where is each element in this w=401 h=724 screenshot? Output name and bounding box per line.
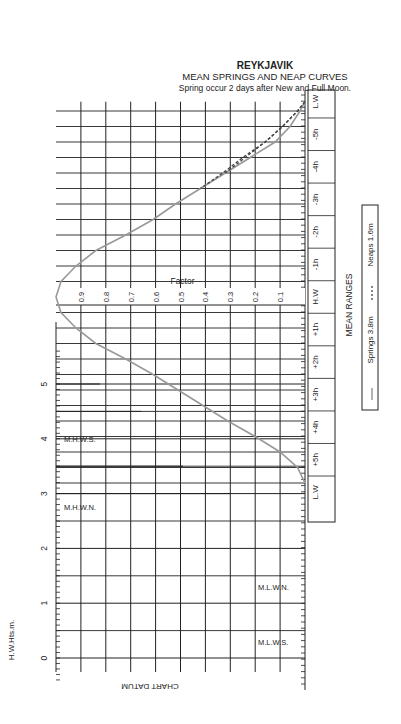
height-axis-label: H.W.Hts.m.	[7, 620, 16, 660]
neaps-legend-label: Neaps 1.6m	[366, 223, 375, 266]
time-tick-label: -3h	[311, 194, 320, 206]
time-tick-label: H.W	[311, 289, 320, 305]
mhws-label: M.H.W.S.	[64, 435, 96, 444]
factor-tick-label: 0.2	[251, 292, 260, 302]
factor-label: Factor	[170, 276, 194, 286]
mlws-label: M.L.W.S.	[258, 638, 288, 647]
time-tick-label: +5h	[311, 453, 320, 467]
chart-datum-label: CHART DATUM	[121, 682, 179, 691]
time-tick-label: L.W	[311, 94, 320, 109]
tidal-curve-chart: L.W-5h-4h-3h-2h-1hH.W+1h+2h+3h+4h+5hL.W0…	[0, 0, 401, 724]
height-tick-label: 2	[39, 546, 49, 551]
time-tick-label: +4h	[311, 420, 320, 434]
height-tick-label: 3	[39, 491, 49, 496]
height-tick-label: 0	[39, 655, 49, 660]
time-tick-label: -2h	[311, 226, 320, 238]
time-tick-label: -5h	[311, 128, 320, 140]
time-tick-label: +2h	[311, 355, 320, 369]
mlwn-label: M.L.W.N.	[258, 583, 289, 592]
springs-legend-label: Springs 3.8m	[366, 316, 375, 363]
time-tick-label: -4h	[311, 161, 320, 173]
mean-ranges-label: MEAN RANGES	[344, 273, 354, 336]
factor-tick-label: 0.1	[276, 292, 285, 302]
factor-tick-label: 0.7	[127, 292, 136, 302]
time-tick-label: L.W	[311, 485, 320, 500]
factor-tick-label: 0.6	[152, 292, 161, 302]
factor-tick-label: 0.8	[102, 292, 111, 302]
factor-tick-label: 0.3	[226, 292, 235, 302]
time-tick-label: -1h	[311, 259, 320, 271]
factor-tick-label: 0.5	[177, 292, 186, 302]
mhwn-label: M.H.W.N.	[64, 503, 96, 512]
chart-labels: L.W-5h-4h-3h-2h-1hH.W+1h+2h+3h+4h+5hL.W0…	[7, 94, 378, 691]
factor-tick-label: 0.4	[201, 292, 210, 302]
height-tick-label: 4	[39, 436, 49, 441]
chart-grid	[56, 90, 335, 690]
time-tick-label: +1h	[311, 323, 320, 337]
time-tick-label: +3h	[311, 388, 320, 402]
height-tick-label: 5	[39, 381, 49, 386]
factor-tick-label: 0.9	[77, 292, 86, 302]
height-tick-label: 1	[39, 601, 49, 606]
neaps-curve	[200, 102, 305, 189]
